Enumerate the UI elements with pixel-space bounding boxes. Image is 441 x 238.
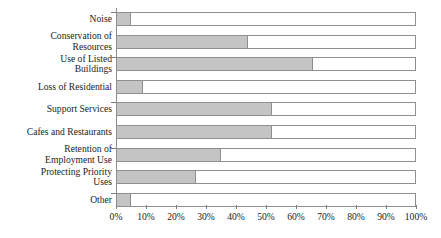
x-axis-tick (386, 205, 387, 209)
category-label: Cafes and Restaurants (0, 127, 116, 137)
bar-filled-segment (116, 148, 221, 162)
category-label: Protecting Priority Uses (0, 167, 116, 188)
category-label: Retention of Employment Use (0, 144, 116, 165)
category-label: Conservation of Resources (0, 31, 116, 52)
bar-filled-segment (116, 35, 248, 49)
y-axis-tick (111, 12, 116, 13)
bar-filled-segment (116, 57, 313, 71)
bar-filled-segment (116, 193, 131, 207)
bar-remainder-segment (116, 12, 416, 26)
category-label: Use of Listed Buildings (0, 54, 116, 75)
category-label: Noise (0, 14, 116, 24)
x-axis-tick (326, 205, 327, 209)
x-axis-tick (266, 205, 267, 209)
bar-filled-segment (116, 125, 272, 139)
x-axis-tick (146, 205, 147, 209)
bar-filled-segment (116, 12, 131, 26)
x-axis-tick (416, 205, 417, 209)
bar-filled-segment (116, 80, 143, 94)
x-axis-tick (356, 205, 357, 209)
bar-filled-segment (116, 170, 196, 184)
x-axis-tick (296, 205, 297, 209)
horizontal-bar-chart: NoiseConservation of ResourcesUse of Lis… (0, 0, 441, 238)
x-axis-tick-label: 100% (396, 211, 436, 222)
x-axis-tick (206, 205, 207, 209)
plot-area: 0%10%20%30%40%50%60%70%80%90%100% (116, 8, 416, 205)
x-axis-tick (116, 205, 117, 209)
category-label: Other (0, 195, 116, 205)
bar-filled-segment (116, 102, 272, 116)
category-label: Loss of Residential (0, 82, 116, 92)
bar-remainder-segment (116, 80, 416, 94)
category-label-column: NoiseConservation of ResourcesUse of Lis… (0, 0, 116, 205)
x-axis-tick (176, 205, 177, 209)
x-axis-tick (236, 205, 237, 209)
category-label: Support Services (0, 104, 116, 114)
